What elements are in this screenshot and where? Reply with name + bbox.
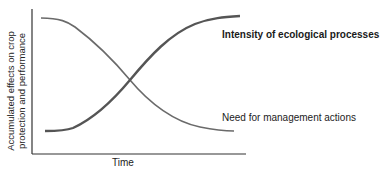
y-axis-label: Accumulated effects on crop protection a… [5, 21, 31, 161]
need-curve-label: Need for management actions [222, 112, 356, 123]
diagram-canvas: Accumulated effects on crop protection a… [0, 0, 382, 172]
need-for-management-curve [41, 18, 234, 131]
x-axis-label: Time [112, 157, 134, 168]
diagram-plot [0, 0, 382, 172]
y-axis-label-line1: Accumulated effects on crop [5, 21, 16, 161]
intensity-ecological-curve [45, 16, 240, 131]
intensity-curve-label: Intensity of ecological processes [222, 29, 379, 40]
y-axis-label-line2: protection and performance [16, 21, 27, 161]
